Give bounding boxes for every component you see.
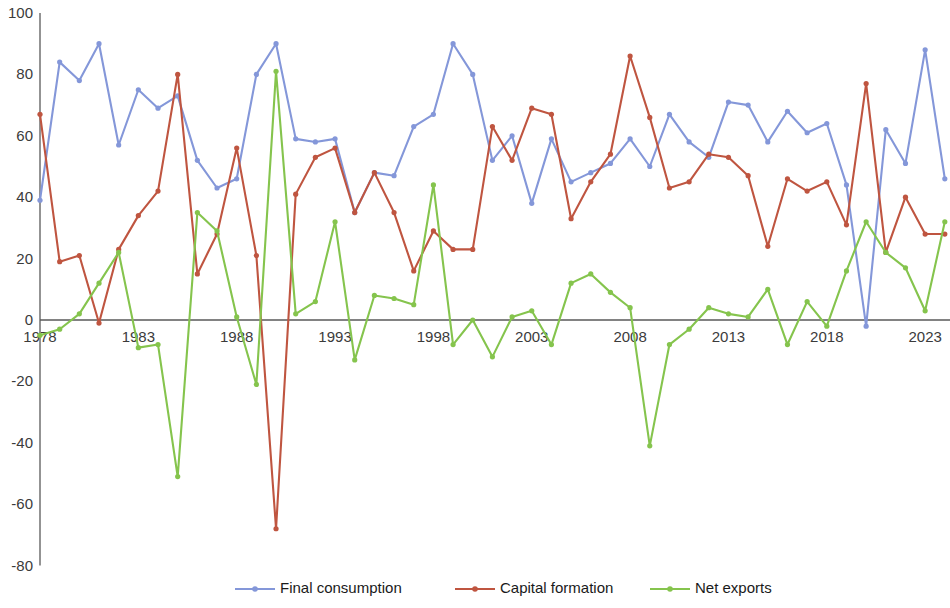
data-point (175, 474, 180, 479)
data-point (765, 244, 770, 249)
x-axis-tick-label: 2018 (810, 328, 843, 345)
line-chart: 100806040200-20-40-60-80 197819831988199… (0, 0, 950, 608)
data-point (411, 302, 416, 307)
data-point (509, 133, 514, 138)
data-point (116, 250, 121, 255)
data-point (372, 293, 377, 298)
data-point (293, 311, 298, 316)
data-point (785, 109, 790, 114)
data-point (529, 308, 534, 313)
data-point (470, 72, 475, 77)
data-point (155, 188, 160, 193)
y-axis-tick-label: 0 (25, 311, 33, 328)
data-point (824, 179, 829, 184)
data-point (726, 155, 731, 160)
data-point (470, 317, 475, 322)
data-point (844, 268, 849, 273)
data-point (195, 271, 200, 276)
data-point (313, 299, 318, 304)
data-point (96, 320, 101, 325)
data-point (136, 87, 141, 92)
data-point (647, 115, 652, 120)
data-point (254, 382, 259, 387)
data-point (214, 228, 219, 233)
data-point (77, 78, 82, 83)
data-point (824, 324, 829, 329)
y-axis-tick-label: -20 (11, 372, 33, 389)
data-point (608, 161, 613, 166)
legend-swatch-marker (252, 586, 258, 592)
data-point (883, 250, 888, 255)
data-point (116, 142, 121, 147)
data-point (293, 192, 298, 197)
y-axis-tick-label: 20 (16, 250, 33, 267)
data-point (155, 106, 160, 111)
data-point (450, 247, 455, 252)
data-point (136, 213, 141, 218)
data-point (450, 342, 455, 347)
legend-swatch-marker (472, 586, 478, 592)
y-axis-tick-label: -40 (11, 434, 33, 451)
data-point (549, 112, 554, 117)
data-point (214, 185, 219, 190)
data-point (667, 185, 672, 190)
data-point (903, 195, 908, 200)
legend-label: Capital formation (500, 579, 613, 596)
chart-legend: Final consumptionCapital formationNet ex… (235, 579, 772, 596)
data-point (391, 210, 396, 215)
data-point (490, 124, 495, 129)
legend-item[interactable]: Final consumption (235, 579, 402, 596)
data-point (568, 179, 573, 184)
data-point (903, 265, 908, 270)
data-point (923, 308, 928, 313)
data-point (588, 179, 593, 184)
data-point (608, 290, 613, 295)
data-point (628, 305, 633, 310)
data-point (588, 271, 593, 276)
data-point (529, 201, 534, 206)
data-point (903, 161, 908, 166)
data-point (667, 112, 672, 117)
data-point (332, 219, 337, 224)
legend-swatch-marker (667, 586, 673, 592)
data-point (411, 124, 416, 129)
data-point (746, 173, 751, 178)
series-layer (37, 41, 947, 531)
data-point (96, 281, 101, 286)
data-point (332, 145, 337, 150)
data-point (687, 179, 692, 184)
data-point (687, 139, 692, 144)
data-point (568, 216, 573, 221)
data-point (687, 327, 692, 332)
data-point (608, 152, 613, 157)
data-point (942, 176, 947, 181)
legend-item[interactable]: Capital formation (455, 579, 613, 596)
data-point (805, 130, 810, 135)
data-point (273, 69, 278, 74)
data-point (509, 158, 514, 163)
x-axis-tick-label: 1998 (417, 328, 450, 345)
data-point (746, 314, 751, 319)
data-point (391, 296, 396, 301)
data-point (37, 333, 42, 338)
legend-label: Final consumption (280, 579, 402, 596)
data-point (844, 222, 849, 227)
y-axis-tick-label: 60 (16, 127, 33, 144)
data-point (234, 145, 239, 150)
data-point (391, 173, 396, 178)
data-point (706, 305, 711, 310)
data-point (195, 158, 200, 163)
data-point (57, 327, 62, 332)
x-axis-tick-label: 1993 (318, 328, 351, 345)
data-point (844, 182, 849, 187)
data-point (155, 342, 160, 347)
x-axis-tick-label: 2023 (908, 328, 941, 345)
data-point (726, 99, 731, 104)
y-axis-tick-label: 100 (8, 4, 33, 21)
legend-item[interactable]: Net exports (650, 579, 772, 596)
data-point (765, 287, 770, 292)
data-point (864, 81, 869, 86)
series-capital-formation (37, 53, 947, 531)
data-point (96, 41, 101, 46)
data-point (431, 182, 436, 187)
